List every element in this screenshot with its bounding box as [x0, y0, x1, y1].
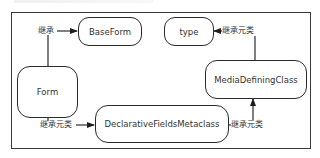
node-label: MediaDefiningClass: [214, 75, 298, 85]
node-label: type: [180, 27, 199, 37]
node-label: BaseForm: [89, 27, 131, 37]
node-label: DeclarativeFieldsMetaclass: [105, 119, 220, 129]
node-baseform: BaseForm: [78, 17, 142, 46]
diagram-canvas: BaseForm type Form MediaDefiningClass De…: [0, 0, 320, 158]
node-form: Form: [17, 66, 78, 118]
node-type: type: [164, 17, 214, 46]
edge-label-form-declarative: 继承元类: [40, 120, 72, 130]
edge-label-mediadefining-type: 继承元类: [222, 26, 254, 36]
node-label: Form: [37, 87, 58, 97]
edge-label-declarative-mediadefining: 继承元类: [231, 120, 263, 130]
node-mediadefiningclass: MediaDefiningClass: [205, 60, 307, 99]
edge-label-form-baseform: 继承: [38, 26, 54, 36]
node-declarativefieldsmetaclass: DeclarativeFieldsMetaclass: [95, 105, 229, 143]
